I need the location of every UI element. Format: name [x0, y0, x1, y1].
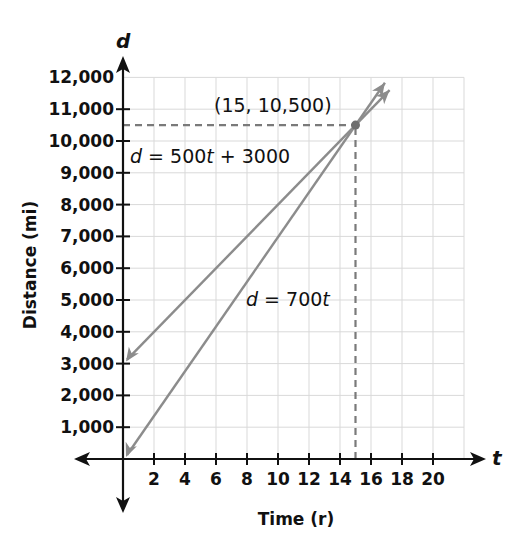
x-tick-label: 14 [328, 469, 352, 489]
x-tick-label: 12 [297, 469, 321, 489]
y-axis-variable: d [116, 29, 131, 53]
y-tick-label: 7,000 [60, 226, 114, 246]
x-tick-label: 2 [148, 469, 160, 489]
series-line-1 [127, 83, 385, 455]
x-tick-label: 6 [210, 469, 222, 489]
y-tick-label: 3,000 [60, 354, 114, 374]
y-tick-label: 6,000 [60, 258, 114, 278]
y-tick-label: 10,000 [48, 131, 114, 151]
y-tick-label: 5,000 [60, 290, 114, 310]
y-tick-label: 4,000 [60, 322, 114, 342]
equation-label-line2: d = 700t [246, 288, 331, 310]
intersection-point [351, 121, 360, 130]
line-chart: 24681012141618201,0002,0003,0004,0005,00… [0, 0, 528, 545]
x-tick-label: 20 [421, 469, 445, 489]
x-tick-label: 10 [266, 469, 290, 489]
x-tick-label: 16 [359, 469, 383, 489]
x-axis-variable: t [492, 446, 503, 470]
x-tick-label: 8 [241, 469, 253, 489]
intersection-label: (15, 10,500) [214, 94, 332, 116]
x-tick-label: 4 [179, 469, 191, 489]
y-tick-label: 1,000 [60, 417, 114, 437]
y-tick-label: 12,000 [48, 67, 114, 87]
y-tick-label: 8,000 [60, 195, 114, 215]
y-tick-label: 9,000 [60, 163, 114, 183]
y-axis-title: Distance (mi) [20, 201, 40, 329]
x-axis-title: Time (r) [258, 509, 335, 529]
y-tick-label: 11,000 [48, 99, 114, 119]
y-tick-label: 2,000 [60, 385, 114, 405]
x-tick-label: 18 [390, 469, 414, 489]
equation-label-line1: d = 500t + 3000 [130, 145, 290, 167]
grid-lines [123, 77, 464, 459]
series-line-0 [127, 90, 390, 359]
data-lines [126, 83, 390, 457]
